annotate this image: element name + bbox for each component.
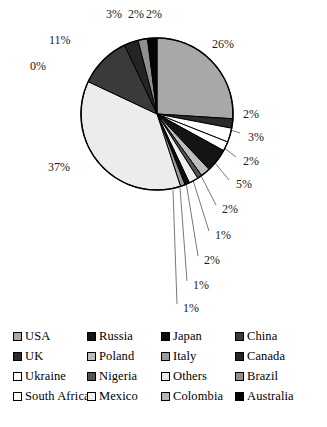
- legend-item-label: UK: [25, 350, 43, 363]
- pie-percentage-label: 1%: [215, 229, 231, 241]
- pie-percentage-label: 1%: [193, 279, 209, 291]
- legend-item-label: South Africa: [25, 390, 90, 403]
- pie-percentage-label: 0%: [30, 60, 46, 72]
- legend-item-ukraine[interactable]: Ukraine: [13, 366, 87, 386]
- legend-item-japan[interactable]: Japan: [161, 326, 235, 346]
- legend-item-label: Colombia: [173, 390, 223, 403]
- legend-swatch-icon: [235, 352, 244, 361]
- legend-item-russia[interactable]: Russia: [87, 326, 161, 346]
- pie-slices-group: [81, 38, 233, 190]
- label-leader-line: [180, 188, 187, 281]
- legend-item-brazil[interactable]: Brazil: [235, 366, 323, 386]
- pie-percentage-label: 2%: [146, 8, 162, 20]
- legend-item-others[interactable]: Others: [161, 366, 235, 386]
- legend-item-australia[interactable]: Australia: [235, 386, 323, 406]
- legend-item-usa[interactable]: USA: [13, 326, 87, 346]
- legend-swatch-icon: [161, 372, 170, 381]
- legend-item-label: Canada: [247, 350, 285, 363]
- legend-item-mexico[interactable]: Mexico: [87, 386, 161, 406]
- pie-percentage-label: 37%: [48, 161, 70, 173]
- legend-item-label: Australia: [247, 390, 294, 403]
- legend-item-south-africa[interactable]: South Africa: [13, 386, 87, 406]
- legend-swatch-icon: [161, 352, 170, 361]
- legend-item-label: China: [247, 330, 277, 343]
- legend-swatch-icon: [235, 332, 244, 341]
- legend-swatch-icon: [13, 332, 22, 341]
- pie-percentage-label: 5%: [236, 178, 252, 190]
- pie-percentage-label: 2%: [243, 155, 259, 167]
- legend-item-china[interactable]: China: [235, 326, 323, 346]
- legend-swatch-icon: [161, 392, 170, 401]
- legend-item-poland[interactable]: Poland: [87, 346, 161, 366]
- legend-item-label: Russia: [99, 330, 133, 343]
- pie-percentage-label: 2%: [243, 108, 259, 120]
- pie-percentage-label: 11%: [49, 34, 71, 46]
- legend-item-nigeria[interactable]: Nigeria: [87, 366, 161, 386]
- legend-swatch-icon: [235, 392, 244, 401]
- pie-percentage-label: 3%: [106, 8, 122, 20]
- pie-percentage-label: 2%: [128, 8, 144, 20]
- legend-swatch-icon: [13, 392, 22, 401]
- pie-percentage-label: 1%: [183, 302, 199, 314]
- legend-item-colombia[interactable]: Colombia: [161, 386, 235, 406]
- legend-swatch-icon: [235, 372, 244, 381]
- legend-swatch-icon: [13, 352, 22, 361]
- legend-item-label: Mexico: [99, 390, 138, 403]
- pie-percentage-label: 2%: [204, 254, 220, 266]
- legend-item-label: USA: [25, 330, 50, 343]
- pie-chart-area: 26%2%3%2%5%2%1%2%1%1%37%0%11%3%2%2%: [0, 0, 327, 320]
- legend-swatch-icon: [161, 332, 170, 341]
- chart-legend: USARussiaJapanChinaUKPolandItalyCanadaUk…: [0, 326, 327, 427]
- legend-item-uk[interactable]: UK: [13, 346, 87, 366]
- pie-percentage-label: 26%: [212, 38, 234, 50]
- legend-item-label: Nigeria: [99, 370, 137, 383]
- label-leader-line: [192, 177, 209, 231]
- legend-item-canada[interactable]: Canada: [235, 346, 323, 366]
- label-leader-line: [173, 190, 177, 304]
- legend-item-label: Others: [173, 370, 207, 383]
- legend-swatch-icon: [87, 352, 96, 361]
- legend-item-italy[interactable]: Italy: [161, 346, 235, 366]
- legend-item-label: Japan: [173, 330, 202, 343]
- legend-item-label: Ukraine: [25, 370, 66, 383]
- legend-item-label: Italy: [173, 350, 196, 363]
- legend-swatch-icon: [87, 332, 96, 341]
- legend-item-label: Poland: [99, 350, 134, 363]
- legend-swatch-icon: [13, 372, 22, 381]
- legend-swatch-icon: [87, 392, 96, 401]
- pie-percentage-label: 3%: [248, 131, 264, 143]
- legend-swatch-icon: [87, 372, 96, 381]
- label-leader-line: [186, 182, 198, 256]
- legend-item-label: Brazil: [247, 370, 278, 383]
- pie-percentage-label: 2%: [222, 203, 238, 215]
